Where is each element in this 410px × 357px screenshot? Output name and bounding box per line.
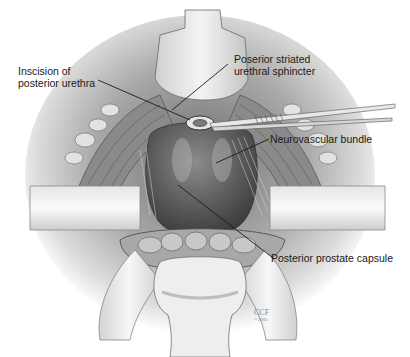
- label-neurovascular-bundle: Neurovascular bundle: [270, 133, 372, 145]
- surgical-illustration: Inscision of posterior urethra Poserior …: [0, 0, 410, 357]
- right-retractor: [270, 186, 385, 230]
- label-incision-posterior-urethra: Inscision of posterior urethra: [18, 65, 95, 89]
- retracted-rectum: [154, 257, 246, 357]
- illustration-artwork: [0, 0, 410, 357]
- label-posterior-prostate-capsule: Posterior prostate capsule: [271, 252, 393, 264]
- copyright-watermark: CCF ©2005: [254, 309, 269, 323]
- prostate: [146, 122, 258, 236]
- left-retractor: [30, 186, 140, 230]
- label-posterior-striated-urethral-sphincter: Poserior striated urethral sphincter: [234, 53, 315, 77]
